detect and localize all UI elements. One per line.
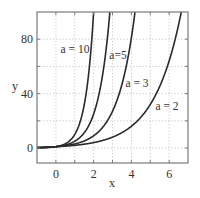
- x-tick-label: 2: [91, 167, 97, 181]
- exponential-chart: 0246 04080 x y a = 10a=5a = 3a = 2: [0, 0, 200, 198]
- x-tick-label: 4: [128, 167, 134, 181]
- curve-a-3: [37, 12, 135, 148]
- grid-lines: [37, 12, 188, 163]
- curve-a-5: [37, 12, 110, 148]
- y-tick-label: 40: [21, 87, 33, 101]
- x-axis-label: x: [109, 176, 115, 190]
- curve-annotations: a = 10a=5a = 3a = 2: [61, 43, 179, 112]
- y-tick-labels: 04080: [21, 32, 33, 155]
- annotation-a-5: a=5: [109, 49, 127, 61]
- curve-a-2: [37, 12, 181, 147]
- x-tick-label: 0: [53, 167, 59, 181]
- curves: [37, 12, 181, 148]
- y-axis-label: y: [12, 79, 18, 93]
- x-tick-label: 6: [166, 167, 172, 181]
- curve-a-10: [37, 12, 94, 148]
- annotation-a-2: a = 2: [155, 100, 178, 112]
- annotation-a-3: a = 3: [125, 77, 148, 89]
- annotation-a-10: a = 10: [61, 43, 90, 55]
- y-tick-label: 0: [27, 141, 33, 155]
- y-tick-label: 80: [21, 32, 33, 46]
